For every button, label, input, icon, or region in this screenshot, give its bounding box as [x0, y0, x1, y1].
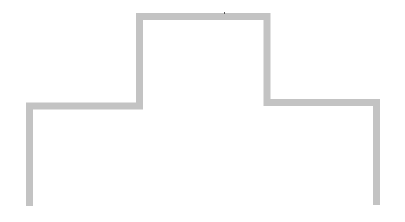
stepped-outline-path — [30, 17, 377, 207]
stray-dot-mark — [224, 12, 225, 14]
stepped-outline-diagram — [0, 0, 405, 222]
